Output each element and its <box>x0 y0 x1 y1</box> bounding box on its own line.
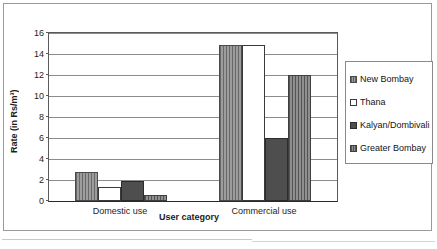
y-tick-label: 14 <box>34 49 44 59</box>
y-tick-mark <box>46 179 49 180</box>
scan-line-right <box>252 241 435 242</box>
legend-swatch-icon <box>350 145 357 152</box>
x-category-label: Commercial use <box>192 206 336 216</box>
y-tick-label: 6 <box>39 133 44 143</box>
bar-commercial-use-thana <box>242 45 265 201</box>
y-tick-mark <box>46 116 49 117</box>
scan-line-left <box>2 239 252 240</box>
y-axis-title: Rate (in Rs/m³) <box>6 56 22 186</box>
legend-swatch-icon <box>350 76 357 83</box>
y-tick-mark <box>46 95 49 96</box>
legend-swatch-icon <box>350 122 357 129</box>
bar-commercial-use-new-bombay <box>219 45 242 201</box>
y-tick-mark <box>46 53 49 54</box>
legend-label: Kalyan/Dombivali <box>360 121 430 130</box>
y-tick-mark <box>46 158 49 159</box>
gridline <box>49 54 337 55</box>
bar-domestic-use-kalyan-dombivali <box>121 181 144 201</box>
bar-domestic-use-thana <box>98 187 121 201</box>
y-tick-mark <box>46 32 49 33</box>
y-tick-label: 12 <box>34 70 44 80</box>
legend-item: New Bombay <box>350 68 429 91</box>
y-tick-label: 16 <box>34 28 44 38</box>
chart-legend: New BombayThanaKalyan/DombivaliGreater B… <box>345 61 433 164</box>
plot-area: 0246810121416 <box>48 32 338 202</box>
legend-item: Greater Bombay <box>350 137 429 160</box>
legend-item: Kalyan/Dombivali <box>350 114 429 137</box>
gridline <box>49 33 337 34</box>
bar-commercial-use-kalyan-dombivali <box>265 138 288 201</box>
legend-swatch-icon <box>350 99 357 106</box>
bar-domestic-use-new-bombay <box>75 172 98 201</box>
legend-label: Greater Bombay <box>360 144 426 153</box>
legend-label: Thana <box>360 98 386 107</box>
x-category-label: Domestic use <box>48 206 192 216</box>
y-tick-label: 2 <box>39 175 44 185</box>
y-tick-label: 8 <box>39 112 44 122</box>
bar-commercial-use-greater-bombay <box>288 75 311 201</box>
y-tick-label: 0 <box>39 196 44 206</box>
legend-label: New Bombay <box>360 75 414 84</box>
legend-item: Thana <box>350 91 429 114</box>
y-tick-mark <box>46 200 49 201</box>
y-tick-label: 4 <box>39 154 44 164</box>
bar-domestic-use-greater-bombay <box>144 195 167 201</box>
chart-figure: Rate (in Rs/m³) 0246810121416 User categ… <box>3 3 432 231</box>
y-tick-label: 10 <box>34 91 44 101</box>
scan-artifact <box>0 235 437 247</box>
y-tick-mark <box>46 74 49 75</box>
y-tick-mark <box>46 137 49 138</box>
